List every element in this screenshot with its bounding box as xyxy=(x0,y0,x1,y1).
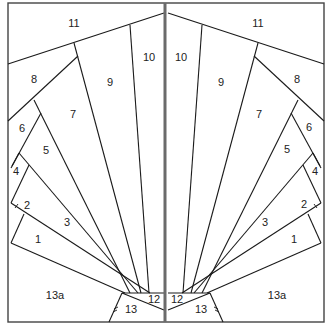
label-7: 7 xyxy=(70,108,76,120)
seam-5-3 xyxy=(19,153,138,293)
label-2: 2 xyxy=(24,199,30,211)
label-10: 10 xyxy=(175,51,187,63)
label-10: 10 xyxy=(143,51,155,63)
label-7: 7 xyxy=(256,108,262,120)
label-3: 3 xyxy=(64,216,70,228)
label-13: 13 xyxy=(195,303,207,315)
label-1: 1 xyxy=(291,233,297,245)
seam-2-1 xyxy=(11,214,24,243)
label-6: 6 xyxy=(19,122,25,134)
pattern-diagram: 11 10 9 8 7 6 5 4 3 2 1 13a 12 13 11 10 xyxy=(0,0,327,328)
seam-10-9 xyxy=(130,25,149,293)
label-6: 6 xyxy=(306,121,312,133)
label-13: 13 xyxy=(125,303,137,315)
label-8: 8 xyxy=(31,73,37,85)
label-4: 4 xyxy=(312,165,318,177)
grain-mark-icon xyxy=(113,307,118,312)
right-half xyxy=(168,13,324,322)
label-3: 3 xyxy=(262,216,268,228)
left-half: 11 10 9 8 7 6 5 4 3 2 1 13a 12 13 xyxy=(8,13,164,322)
label-9: 9 xyxy=(218,76,224,88)
label-13a: 13a xyxy=(46,289,65,301)
label-9: 9 xyxy=(107,76,113,88)
label-8: 8 xyxy=(294,73,300,85)
label-5: 5 xyxy=(284,143,290,155)
label-12: 12 xyxy=(171,293,183,305)
label-11: 11 xyxy=(252,17,263,29)
right-half-labels: 11 10 9 8 7 6 5 4 3 2 1 13a 12 13 xyxy=(171,17,318,315)
label-1: 1 xyxy=(35,233,41,245)
label-2: 2 xyxy=(301,198,307,210)
seam-8-7 xyxy=(8,56,78,121)
label-4: 4 xyxy=(13,165,19,177)
seam-13-13a xyxy=(109,293,122,322)
seam-1-13a xyxy=(11,243,125,293)
label-12: 12 xyxy=(148,293,160,305)
label-13a: 13a xyxy=(268,289,287,301)
label-11: 11 xyxy=(68,17,79,29)
label-5: 5 xyxy=(43,144,49,156)
seam-11 xyxy=(8,13,164,64)
